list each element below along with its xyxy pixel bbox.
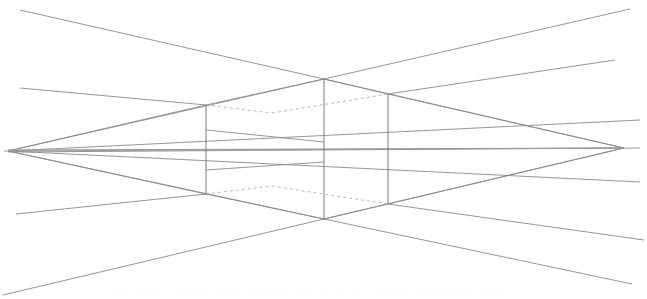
ray-right-vp-right-bottom bbox=[388, 148, 624, 204]
edge-front-right-bottom bbox=[324, 204, 388, 219]
top-right-long bbox=[388, 60, 615, 94]
edge-front-right-top bbox=[324, 79, 388, 94]
bottom-right-ray bbox=[324, 219, 632, 284]
ray-left-vp-left-bottom bbox=[8, 151, 206, 194]
caption-text: ···· ··· ··· ······ ····· ·· ····· ···· … bbox=[110, 288, 550, 296]
edge-front-left-top bbox=[206, 79, 324, 105]
ray-right-vp-right-top bbox=[388, 94, 624, 148]
top-left-long bbox=[20, 88, 206, 105]
lower-left-long bbox=[16, 194, 206, 214]
upper-left-ray bbox=[20, 10, 324, 79]
bottom-left-ray bbox=[3, 219, 324, 295]
perspective-diagram bbox=[0, 0, 647, 299]
upper-right-ray bbox=[324, 9, 630, 79]
hidden-back-left-bottom bbox=[206, 186, 272, 194]
hidden-back-right-top bbox=[272, 94, 388, 113]
hidden-back-right-bottom bbox=[272, 186, 388, 204]
ray-left-vp-left-top bbox=[8, 105, 206, 151]
lower-right-long bbox=[388, 204, 644, 240]
edge-front-left-bottom bbox=[206, 194, 324, 219]
hidden-back-left-top bbox=[206, 105, 272, 113]
